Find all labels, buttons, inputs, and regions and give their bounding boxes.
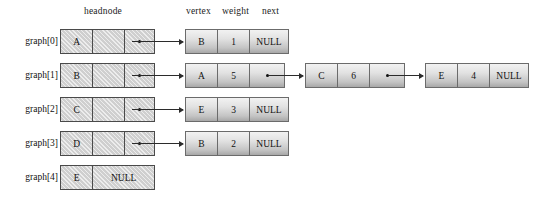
pointer-arrow: [132, 109, 183, 110]
node-vertex-cell: A: [186, 64, 218, 87]
node-vertex-cell: B: [186, 30, 218, 53]
row-label-1: graph[1]: [10, 70, 58, 80]
headnode-filler-cell: [93, 98, 124, 121]
headnode-filler-cell: [93, 132, 124, 155]
list-node-1-2: E4NULL: [425, 63, 529, 88]
column-header-headnode: headnode: [84, 6, 122, 16]
column-header-vertex: vertex: [186, 6, 211, 16]
row-label-3: graph[3]: [10, 138, 58, 148]
row-label-4: graph[4]: [10, 172, 58, 182]
node-next-cell: NULL: [250, 30, 288, 53]
node-vertex-cell: B: [186, 132, 218, 155]
node-weight-cell: 4: [458, 64, 490, 87]
node-next-cell: NULL: [250, 132, 288, 155]
pointer-arrow: [269, 75, 303, 76]
headnode-vertex-cell: C: [61, 98, 93, 121]
list-node-0-0: B1NULL: [185, 29, 289, 54]
headnode-vertex-cell: A: [61, 30, 93, 53]
headnode-vertex-cell: B: [61, 64, 93, 87]
node-weight-cell: 6: [338, 64, 370, 87]
node-vertex-cell: C: [306, 64, 338, 87]
headnode-vertex-cell: E: [61, 166, 93, 189]
list-node-3-0: B2NULL: [185, 131, 289, 156]
headnode-filler-cell: [93, 64, 124, 87]
node-next-cell: NULL: [250, 98, 288, 121]
headnode-box-4: ENULL: [60, 165, 155, 190]
list-node-2-0: E3NULL: [185, 97, 289, 122]
headnode-null-cell: NULL: [93, 166, 154, 189]
pointer-arrow: [132, 75, 183, 76]
pointer-arrow: [132, 41, 183, 42]
column-header-weight: weight: [222, 6, 249, 16]
row-label-2: graph[2]: [10, 104, 58, 114]
node-weight-cell: 2: [218, 132, 250, 155]
headnode-vertex-cell: D: [61, 132, 93, 155]
adjacency-list-diagram: headnode vertex weight next graph[0]AB1N…: [0, 0, 544, 198]
column-header-next: next: [262, 6, 279, 16]
pointer-arrow: [389, 75, 423, 76]
node-weight-cell: 5: [218, 64, 250, 87]
node-weight-cell: 3: [218, 98, 250, 121]
headnode-filler-cell: [93, 30, 124, 53]
pointer-arrow: [132, 143, 183, 144]
node-vertex-cell: E: [186, 98, 218, 121]
node-weight-cell: 1: [218, 30, 250, 53]
row-label-0: graph[0]: [10, 36, 58, 46]
node-vertex-cell: E: [426, 64, 458, 87]
node-next-cell: NULL: [490, 64, 528, 87]
